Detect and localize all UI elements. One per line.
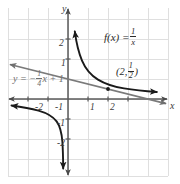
- function-equation-label: f(x) =1x: [104, 27, 137, 46]
- function-fraction-numerator: 1: [130, 27, 136, 36]
- function-fraction-denominator: x: [130, 36, 136, 46]
- plot-canvas: [0, 0, 180, 184]
- point-label-fraction: 12: [128, 62, 134, 80]
- x-axis-label: x: [170, 101, 174, 111]
- line-fraction-numerator: 1: [36, 70, 42, 78]
- y-tick-label-2: 2: [59, 39, 64, 49]
- point-fraction-numerator: 1: [128, 62, 134, 71]
- x-tick-label-1: 1: [90, 103, 95, 113]
- line-equation-rhs: x + 1: [43, 73, 64, 84]
- graph-figure: y x -2 -1 1 2 2 1 -1 -2 f(x) =1x y = −14…: [0, 0, 180, 184]
- point-label-close: ): [134, 66, 138, 77]
- x-tick-label-neg1: -1: [55, 103, 63, 113]
- x-tick-label-2: 2: [110, 103, 115, 113]
- function-equation-lhs: f(x) =: [104, 31, 129, 43]
- function-equation-fraction: 1x: [130, 27, 136, 46]
- line-equation-label: y = −14x + 1: [13, 70, 64, 88]
- point-label-open: (2,: [116, 66, 127, 77]
- x-tick-label-neg2: -2: [35, 103, 43, 113]
- y-tick-label-1: 1: [61, 59, 66, 69]
- y-axis-label: y: [62, 4, 66, 14]
- line-fraction-denominator: 4: [36, 78, 42, 87]
- marked-point-dot: [106, 87, 110, 91]
- line-equation-lhs: y = −: [13, 73, 36, 84]
- y-tick-label-neg1: -1: [57, 119, 65, 129]
- y-tick-label-neg2: -2: [57, 139, 65, 149]
- line-equation-fraction: 14: [36, 70, 42, 88]
- point-fraction-denominator: 2: [128, 71, 134, 81]
- point-coordinate-label: (2,12): [116, 62, 138, 80]
